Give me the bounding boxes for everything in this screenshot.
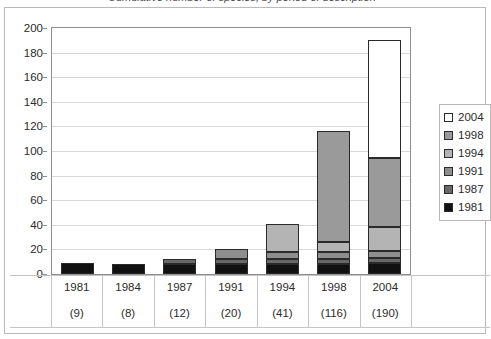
y-axis-tick-label: 180 (24, 47, 43, 59)
y-axis-tick-label: 60 (30, 194, 43, 206)
legend-swatch-icon (444, 167, 453, 176)
bar-column[interactable] (61, 263, 94, 274)
bar-segment[interactable] (266, 224, 299, 252)
bar-segment[interactable] (368, 158, 401, 227)
y-axis-tick-mark (43, 151, 47, 152)
bar-segment[interactable] (368, 263, 401, 274)
x-axis-total-label: (41) (257, 307, 308, 319)
y-axis-tick-mark (43, 53, 47, 54)
y-axis-tick-label: 40 (30, 219, 43, 231)
legend-label: 1991 (458, 165, 484, 177)
x-axis-category-label: 2004 (360, 281, 411, 293)
legend-item[interactable]: 1991 (440, 162, 490, 180)
bar-segment[interactable] (215, 259, 248, 264)
bar-column[interactable] (368, 40, 401, 274)
legend-label: 1998 (458, 129, 484, 141)
legend-swatch-icon (444, 131, 453, 140)
legend-item[interactable]: 1998 (440, 126, 490, 144)
x-axis-total-label: (8) (102, 307, 153, 319)
y-axis-tick-mark (43, 249, 47, 250)
y-axis-tick-label: 120 (24, 120, 43, 132)
y-axis-tick-mark (43, 200, 47, 201)
legend-label: 1987 (458, 183, 484, 195)
bar-segment[interactable] (317, 264, 350, 274)
chart-legend: 200419981994199119871981 (439, 104, 491, 221)
bar-segment[interactable] (317, 252, 350, 259)
bar-column[interactable] (112, 264, 145, 274)
bar-segment[interactable] (215, 264, 248, 274)
chart-frame: 200180160140120100806040200 1981(9)1984(… (4, 7, 486, 334)
y-axis-tick-mark (43, 102, 47, 103)
legend-label: 1994 (458, 147, 484, 159)
x-axis-total-label: (190) (360, 307, 411, 319)
y-axis-tick-label: 140 (24, 96, 43, 108)
bar-segment[interactable] (215, 249, 248, 259)
legend-swatch-icon (444, 113, 453, 122)
y-axis-tick-mark (43, 126, 47, 127)
x-axis-category-label: 1998 (308, 281, 359, 293)
bar-series-container (52, 28, 410, 274)
x-axis-label-table: 1981(9)1984(8)1987(12)1991(20)1994(41)19… (10, 275, 490, 335)
x-axis-total-label: (9) (51, 307, 102, 319)
bar-column[interactable] (163, 259, 196, 274)
y-axis-tick-mark (43, 28, 47, 29)
x-axis-category-label: 1991 (205, 281, 256, 293)
legend-label: 1981 (458, 201, 484, 213)
x-axis-category-label: 1987 (154, 281, 205, 293)
legend-swatch-icon (444, 185, 453, 194)
y-axis-tick-label: 100 (24, 145, 43, 157)
x-axis-category-label: 1984 (102, 281, 153, 293)
y-axis-tick-label: 80 (30, 170, 43, 182)
bar-segment[interactable] (61, 263, 94, 274)
y-axis-tick-mark (43, 176, 47, 177)
bar-segment[interactable] (266, 264, 299, 274)
chart-screenshot: Cumulative number of species, by period … (0, 0, 491, 339)
bar-segment[interactable] (368, 40, 401, 158)
bar-segment[interactable] (163, 264, 196, 274)
y-axis-tick-label: 200 (24, 22, 43, 34)
legend-item[interactable]: 1981 (440, 198, 490, 216)
y-axis-tick-label: 20 (30, 243, 43, 255)
bar-segment[interactable] (368, 258, 401, 263)
bar-column[interactable] (215, 249, 248, 274)
bar-segment[interactable] (317, 131, 350, 242)
legend-item[interactable]: 1987 (440, 180, 490, 198)
legend-item[interactable]: 2004 (440, 108, 490, 126)
legend-swatch-icon (444, 149, 453, 158)
bar-segment[interactable] (317, 242, 350, 252)
x-axis-category-label: 1981 (51, 281, 102, 293)
legend-swatch-icon (444, 203, 453, 212)
x-axis-total-label: (12) (154, 307, 205, 319)
bar-segment[interactable] (317, 259, 350, 264)
bar-segment[interactable] (368, 227, 401, 250)
legend-item[interactable]: 1994 (440, 144, 490, 162)
x-axis-total-label: (20) (205, 307, 256, 319)
y-axis-tick-mark (43, 225, 47, 226)
bar-segment[interactable] (266, 259, 299, 264)
bar-column[interactable] (266, 224, 299, 274)
bar-segment[interactable] (112, 264, 145, 274)
legend-label: 2004 (458, 111, 484, 123)
x-axis-total-label: (116) (308, 307, 359, 319)
y-axis: 200180160140120100806040200 (5, 27, 47, 275)
bar-segment[interactable] (163, 259, 196, 264)
bar-column[interactable] (317, 131, 350, 274)
table-top-rule (10, 275, 490, 276)
bar-segment[interactable] (368, 251, 401, 258)
y-axis-tick-label: 160 (24, 71, 43, 83)
table-separator (411, 275, 412, 327)
y-axis-tick-mark (43, 77, 47, 78)
x-axis-category-label: 1994 (257, 281, 308, 293)
table-bottom-rule (10, 327, 490, 328)
chart-title-fragment: Cumulative number of species, by period … (108, 0, 376, 3)
bar-segment[interactable] (266, 252, 299, 259)
